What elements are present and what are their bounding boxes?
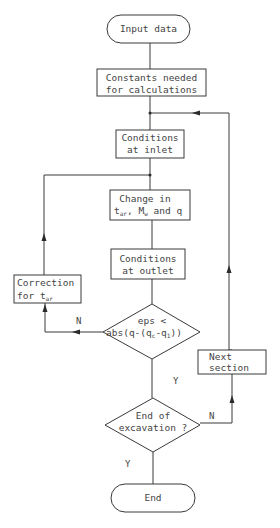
- next-label-2: section: [209, 362, 249, 373]
- start-label: Input data: [120, 23, 177, 34]
- flowchart: Input data Constants needed for calculat…: [0, 0, 280, 528]
- connector-decision2-next: [200, 374, 232, 423]
- arrow-up-icon: [42, 233, 47, 241]
- decision1-label-1: eps <: [138, 315, 167, 326]
- decision2-label-1: End of: [136, 410, 170, 421]
- constants-label-1: Constants needed: [106, 72, 198, 83]
- connector-decision1-correction: [45, 303, 103, 332]
- next-section-box: Next section: [198, 350, 266, 374]
- decision2-label-2: excavation ?: [119, 422, 188, 433]
- decision-end-of-excavation: End of excavation ?: [105, 398, 200, 452]
- decision1-label-2: abs(q-(qc-q1)): [106, 327, 182, 339]
- change-label-1: Change in: [119, 193, 170, 204]
- decision1-no-label: N: [76, 316, 81, 326]
- arrow-up-icon: [227, 265, 232, 273]
- inlet-label-2: at inlet: [127, 144, 173, 155]
- decision1-yes-label: Y: [173, 376, 179, 386]
- arrow-up-icon: [230, 395, 235, 403]
- next-label-1: Next: [209, 351, 232, 362]
- constants-label-2: for calculations: [106, 84, 198, 95]
- start-terminator: Input data: [107, 15, 190, 43]
- end-label: End: [144, 492, 161, 503]
- inlet-label-1: Conditions: [121, 132, 178, 143]
- correction-box: Correction for tar: [14, 275, 81, 303]
- junction-dot: [149, 174, 152, 177]
- constants-box: Constants needed for calculations: [97, 69, 206, 96]
- outlet-box: Conditions at outlet: [111, 249, 185, 279]
- arrow-left-icon: [72, 330, 80, 335]
- decision2-yes-label: Y: [125, 459, 131, 469]
- change-box: Change in tar, Mw and q: [110, 190, 190, 220]
- inlet-box: Conditions at inlet: [116, 130, 184, 158]
- arrow-left-icon: [192, 111, 200, 116]
- end-terminator: End: [111, 484, 195, 512]
- decision-eps: eps < abs(q-(qc-q1)): [103, 304, 200, 359]
- arrow-up-icon: [43, 304, 48, 312]
- junction-dot: [149, 112, 152, 115]
- outlet-label-1: Conditions: [119, 253, 176, 264]
- outlet-label-2: at outlet: [122, 265, 173, 276]
- decision2-no-label: N: [209, 411, 214, 421]
- correction-label-1: Correction: [17, 277, 74, 288]
